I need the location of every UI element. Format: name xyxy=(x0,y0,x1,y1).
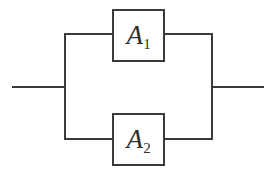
block-a2-label: A2 xyxy=(112,113,165,166)
parallel-block-diagram: A1 A2 xyxy=(0,0,274,175)
block-a1-subscript: 1 xyxy=(143,36,151,52)
block-a1-label: A1 xyxy=(112,9,165,62)
block-a1-base: A xyxy=(126,20,143,50)
block-a2-subscript: 2 xyxy=(143,140,151,156)
block-a2-base: A xyxy=(126,124,143,154)
